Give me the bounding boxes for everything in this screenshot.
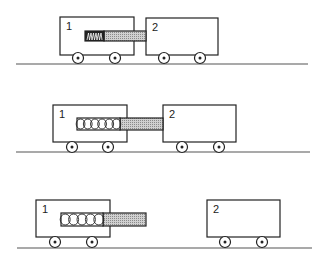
cart-label: 1 <box>59 108 65 120</box>
axle-dot <box>107 146 110 149</box>
scene-separated: 12 <box>17 200 312 248</box>
cart-2: 2 <box>207 200 280 248</box>
axle-dot <box>199 57 202 60</box>
axle-dot <box>114 57 117 60</box>
spring-extended <box>76 118 121 130</box>
cart-label: 2 <box>152 21 158 33</box>
axle-dot <box>91 241 94 244</box>
cart-2: 2 <box>146 18 218 64</box>
piston-rod <box>104 31 146 41</box>
axle-dot <box>54 241 57 244</box>
axle-dot <box>224 241 227 244</box>
axle-dot <box>71 146 74 149</box>
scene-compressed: 12 <box>16 17 308 64</box>
cart-2: 2 <box>163 105 236 153</box>
cart-label: 1 <box>66 20 72 32</box>
cart-spring-diagram: 121212 <box>0 0 322 256</box>
spring-compressed <box>85 31 104 41</box>
axle-dot <box>261 241 264 244</box>
spring-extended <box>60 213 104 226</box>
cart-label: 2 <box>169 108 175 120</box>
scene-expanding: 12 <box>16 105 310 153</box>
axle-dot <box>181 146 184 149</box>
piston-rod <box>103 213 146 226</box>
piston-rod <box>120 118 163 130</box>
cart-label: 2 <box>213 203 219 215</box>
axle-dot <box>163 57 166 60</box>
cart-label: 1 <box>42 203 48 215</box>
axle-dot <box>77 57 80 60</box>
axle-dot <box>218 146 221 149</box>
